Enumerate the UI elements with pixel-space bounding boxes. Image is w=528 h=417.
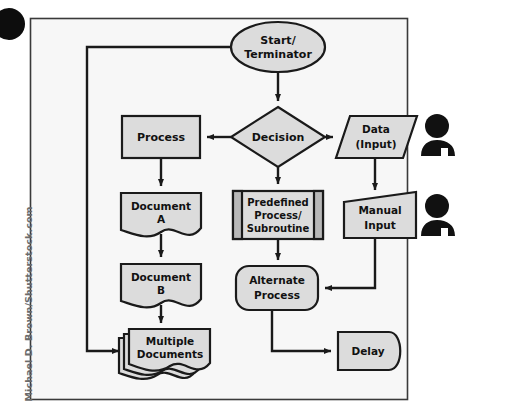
manual-input-label-line1: Manual [358, 204, 401, 216]
flowchart-screenshot: Start/ Terminator Decision Process Data … [0, 0, 528, 417]
start-terminator-node[interactable]: Start/ Terminator [231, 22, 325, 72]
document-a-node[interactable]: Document A [121, 193, 201, 236]
document-b-label-line1: Document [131, 271, 191, 283]
person-icon-head [425, 114, 449, 138]
process-label: Process [137, 131, 186, 144]
process-node[interactable]: Process [122, 116, 200, 158]
predefined-process-left-bar [233, 191, 242, 239]
predefined-process-node[interactable]: Predefined Process/ Subroutine [233, 191, 323, 239]
flowchart-canvas: Start/ Terminator Decision Process Data … [0, 0, 528, 417]
alternate-process-shape [236, 266, 318, 310]
delay-node[interactable]: Delay [338, 332, 400, 370]
multiple-documents-label-line1: Multiple [146, 335, 194, 347]
start-terminator-label-line1: Start/ [260, 34, 296, 47]
data-input-label-line2: (Input) [356, 138, 397, 150]
start-terminator-shape [231, 22, 325, 72]
document-a-label-line1: Document [131, 200, 191, 212]
alternate-process-label-line2: Process [254, 289, 300, 301]
predefined-process-label-line2: Process/ [254, 210, 302, 221]
predefined-process-label-line1: Predefined [247, 197, 308, 208]
delay-label: Delay [351, 345, 384, 357]
predefined-process-label-line3: Subroutine [247, 223, 310, 234]
document-b-label-line2: B [157, 284, 165, 296]
manual-input-label-line2: Input [364, 219, 395, 231]
person-icon-head [425, 194, 449, 218]
predefined-process-right-bar [314, 191, 323, 239]
multiple-documents-node[interactable]: Multiple Documents [119, 329, 210, 379]
data-input-label-line1: Data [362, 123, 390, 135]
document-a-label-line2: A [157, 213, 166, 225]
document-b-node[interactable]: Document B [121, 264, 201, 307]
alternate-process-node[interactable]: Alternate Process [236, 266, 318, 310]
data-input-node[interactable]: Data (Input) [336, 116, 417, 158]
multiple-documents-label-line2: Documents [137, 348, 203, 360]
watermark-credit: Michael D. Brown/Shutterstock.com [23, 232, 34, 402]
start-terminator-label-line2: Terminator [244, 48, 312, 61]
decision-label: Decision [252, 131, 305, 144]
alternate-process-label-line1: Alternate [249, 274, 305, 286]
